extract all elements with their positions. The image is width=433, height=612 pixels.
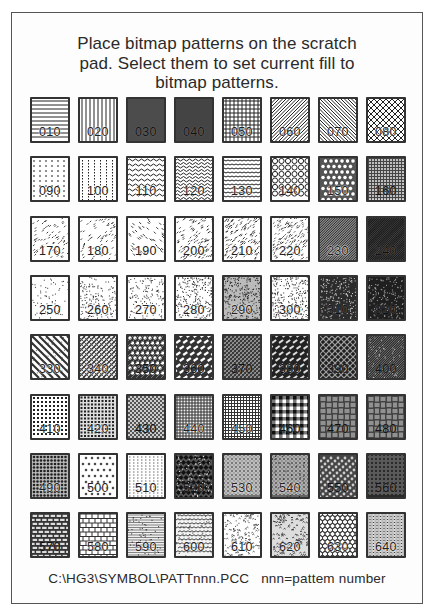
pattern-swatch-380[interactable]: 380 xyxy=(270,334,310,380)
pattern-swatch-470[interactable]: 470 xyxy=(318,394,358,440)
pattern-swatch-150[interactable]: 150 xyxy=(318,156,358,202)
pattern-number-label: 470 xyxy=(320,423,356,436)
pattern-number-label: 210 xyxy=(224,245,260,258)
pattern-swatch-600[interactable]: 600 xyxy=(174,512,214,558)
title-line-3: bitmap patterns. xyxy=(12,73,422,93)
pattern-number-label: 070 xyxy=(320,126,356,139)
pattern-number-label: 150 xyxy=(320,185,356,198)
pattern-number-label: 080 xyxy=(368,126,404,139)
pattern-swatch-310[interactable]: 310 xyxy=(318,275,358,321)
pattern-swatch-280[interactable]: 280 xyxy=(174,275,214,321)
pattern-number-label: 510 xyxy=(128,482,164,495)
pattern-number-label: 050 xyxy=(224,126,260,139)
pattern-number-label: 450 xyxy=(224,423,260,436)
pattern-swatch-170[interactable]: 170 xyxy=(30,216,70,262)
pattern-swatch-110[interactable]: 110 xyxy=(126,156,166,202)
pattern-swatch-060[interactable]: 060 xyxy=(270,97,310,143)
pattern-swatch-160[interactable]: 160 xyxy=(366,156,406,202)
pattern-swatch-070[interactable]: 070 xyxy=(318,97,358,143)
pattern-swatch-460[interactable]: 460 xyxy=(270,394,310,440)
pattern-swatch-020[interactable]: 020 xyxy=(78,97,118,143)
instructions-title: Place bitmap patterns on the scratch pad… xyxy=(12,34,422,93)
pattern-swatch-080[interactable]: 080 xyxy=(366,97,406,143)
pattern-swatch-490[interactable]: 490 xyxy=(30,453,70,499)
pattern-swatch-340[interactable]: 340 xyxy=(78,334,118,380)
pattern-number-label: 590 xyxy=(128,541,164,554)
pattern-swatch-230[interactable]: 230 xyxy=(318,216,358,262)
pattern-number-label: 370 xyxy=(224,363,260,376)
pattern-swatch-590[interactable]: 590 xyxy=(126,512,166,558)
pattern-swatch-180[interactable]: 180 xyxy=(78,216,118,262)
pattern-number-label: 620 xyxy=(272,541,308,554)
pattern-swatch-500[interactable]: 500 xyxy=(78,453,118,499)
pattern-number-label: 220 xyxy=(272,245,308,258)
pattern-number-label: 460 xyxy=(272,423,308,436)
pattern-swatch-300[interactable]: 300 xyxy=(270,275,310,321)
pattern-swatch-130[interactable]: 130 xyxy=(222,156,262,202)
pattern-number-label: 410 xyxy=(32,423,68,436)
pattern-swatch-570[interactable]: 570 xyxy=(30,512,70,558)
pattern-swatch-520[interactable]: 520 xyxy=(174,453,214,499)
pattern-swatch-210[interactable]: 210 xyxy=(222,216,262,262)
pattern-swatch-420[interactable]: 420 xyxy=(78,394,118,440)
pattern-swatch-390[interactable]: 390 xyxy=(318,334,358,380)
pattern-swatch-360[interactable]: 360 xyxy=(174,334,214,380)
pattern-number-label: 580 xyxy=(80,541,116,554)
pattern-swatch-480[interactable]: 480 xyxy=(366,394,406,440)
pattern-number-label: 110 xyxy=(128,185,164,198)
pattern-swatch-220[interactable]: 220 xyxy=(270,216,310,262)
pattern-number-label: 020 xyxy=(80,126,116,139)
pattern-swatch-410[interactable]: 410 xyxy=(30,394,70,440)
pattern-swatch-400[interactable]: 400 xyxy=(366,334,406,380)
pattern-swatch-620[interactable]: 620 xyxy=(270,512,310,558)
pattern-swatch-370[interactable]: 370 xyxy=(222,334,262,380)
pattern-number-label: 280 xyxy=(176,304,212,317)
pattern-number-label: 380 xyxy=(272,363,308,376)
pattern-swatch-240[interactable]: 240 xyxy=(366,216,406,262)
pattern-swatch-100[interactable]: 100 xyxy=(78,156,118,202)
pattern-swatch-140[interactable]: 140 xyxy=(270,156,310,202)
pattern-number-label: 170 xyxy=(32,245,68,258)
pattern-number-label: 130 xyxy=(224,185,260,198)
pattern-number-label: 430 xyxy=(128,423,164,436)
pattern-swatch-050[interactable]: 050 xyxy=(222,97,262,143)
pattern-number-label: 290 xyxy=(224,304,260,317)
pattern-swatch-350[interactable]: 350 xyxy=(126,334,166,380)
pattern-number-label: 600 xyxy=(176,541,212,554)
pattern-number-label: 490 xyxy=(32,482,68,495)
title-line-1: Place bitmap patterns on the scratch xyxy=(12,34,422,54)
pattern-swatch-610[interactable]: 610 xyxy=(222,512,262,558)
pattern-swatch-580[interactable]: 580 xyxy=(78,512,118,558)
pattern-swatch-510[interactable]: 510 xyxy=(126,453,166,499)
pattern-swatch-330[interactable]: 330 xyxy=(30,334,70,380)
pattern-swatch-630[interactable]: 630 xyxy=(318,512,358,558)
pattern-number-label: 160 xyxy=(368,185,404,198)
pattern-swatch-120[interactable]: 120 xyxy=(174,156,214,202)
pattern-swatch-200[interactable]: 200 xyxy=(174,216,214,262)
pattern-swatch-250[interactable]: 250 xyxy=(30,275,70,321)
pattern-swatch-440[interactable]: 440 xyxy=(174,394,214,440)
pattern-swatch-030[interactable]: 030 xyxy=(126,97,166,143)
pattern-number-label: 100 xyxy=(80,185,116,198)
pattern-swatch-640[interactable]: 640 xyxy=(366,512,406,558)
pattern-swatch-320[interactable]: 320 xyxy=(366,275,406,321)
pattern-swatch-190[interactable]: 190 xyxy=(126,216,166,262)
pattern-swatch-530[interactable]: 530 xyxy=(222,453,262,499)
pattern-number-label: 480 xyxy=(368,423,404,436)
pattern-swatch-270[interactable]: 270 xyxy=(126,275,166,321)
pattern-swatch-010[interactable]: 010 xyxy=(30,97,70,143)
pattern-swatch-260[interactable]: 260 xyxy=(78,275,118,321)
pattern-number-label: 340 xyxy=(80,363,116,376)
pattern-swatch-430[interactable]: 430 xyxy=(126,394,166,440)
pattern-swatch-090[interactable]: 090 xyxy=(30,156,70,202)
pattern-swatch-560[interactable]: 560 xyxy=(366,453,406,499)
pattern-swatch-450[interactable]: 450 xyxy=(222,394,262,440)
pattern-swatch-550[interactable]: 550 xyxy=(318,453,358,499)
pattern-number-label: 010 xyxy=(32,126,68,139)
pattern-number-label: 440 xyxy=(176,423,212,436)
pattern-swatch-040[interactable]: 040 xyxy=(174,97,214,143)
pattern-swatch-290[interactable]: 290 xyxy=(222,275,262,321)
pattern-number-label: 560 xyxy=(368,482,404,495)
pattern-number-label: 250 xyxy=(32,304,68,317)
pattern-swatch-540[interactable]: 540 xyxy=(270,453,310,499)
